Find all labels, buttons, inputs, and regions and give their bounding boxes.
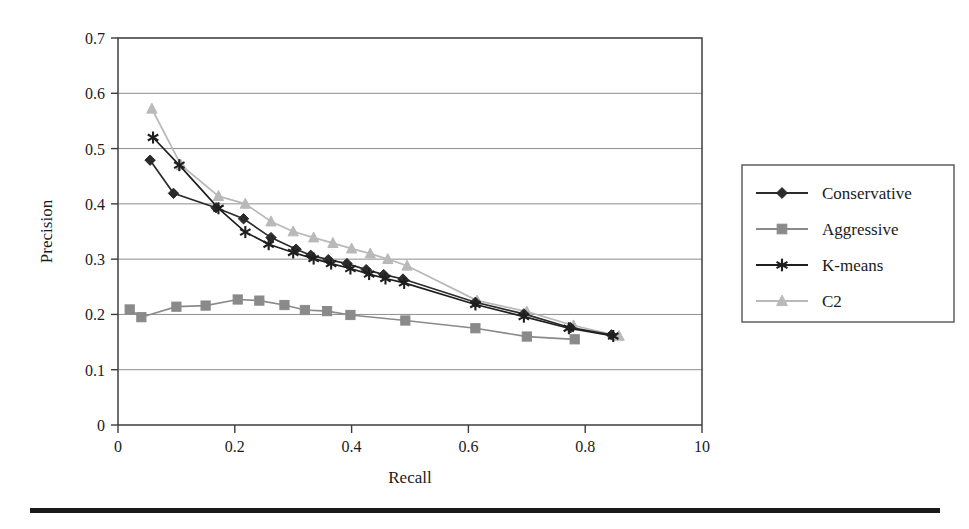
data-point-marker-square bbox=[233, 295, 242, 304]
plot-frame-layer bbox=[118, 38, 702, 425]
x-tick-label: 0.4 bbox=[342, 438, 362, 455]
data-point-marker-square bbox=[172, 302, 181, 311]
data-point-marker-diamond bbox=[168, 188, 178, 198]
figure-container: 00.10.20.30.40.50.60.700.20.40.60.810 Re… bbox=[0, 0, 969, 529]
data-point-marker-triangle bbox=[213, 191, 223, 201]
data-point-marker-square bbox=[137, 313, 146, 322]
data-point-marker-square bbox=[125, 305, 134, 314]
legend-layer: ConservativeAggressiveK-meansC2 bbox=[742, 165, 954, 322]
x-axis-title: Recall bbox=[388, 468, 432, 487]
y-tick-label: 0.3 bbox=[85, 251, 105, 268]
series-layer bbox=[125, 103, 624, 344]
y-axis-title: Precision bbox=[37, 199, 56, 263]
data-point-marker-square bbox=[471, 324, 480, 333]
page-divider-rule bbox=[30, 508, 940, 513]
series-c2 bbox=[147, 103, 625, 340]
data-point-marker-square bbox=[255, 296, 264, 305]
legend-label: Aggressive bbox=[822, 220, 898, 239]
data-point-marker-square bbox=[346, 310, 355, 319]
data-point-marker-triangle bbox=[266, 216, 276, 226]
series-line bbox=[150, 160, 611, 335]
data-point-marker-square bbox=[570, 335, 579, 344]
y-tick-label: 0.4 bbox=[85, 196, 105, 213]
data-point-marker-diamond bbox=[145, 155, 155, 165]
series-k-means bbox=[148, 132, 619, 342]
data-point-marker-square bbox=[322, 307, 331, 316]
y-tick-label: 0.2 bbox=[85, 306, 105, 323]
data-point-marker-square bbox=[300, 305, 309, 314]
series-aggressive bbox=[125, 295, 579, 344]
data-point-marker-triangle bbox=[147, 103, 157, 113]
legend-label: C2 bbox=[822, 292, 842, 311]
series-conservative bbox=[145, 155, 617, 340]
precision-recall-chart: 00.10.20.30.40.50.60.700.20.40.60.810 Re… bbox=[0, 0, 969, 529]
data-point-marker-square bbox=[777, 224, 787, 234]
y-tick-label: 0.1 bbox=[85, 362, 105, 379]
y-tick-label: 0.6 bbox=[85, 85, 105, 102]
data-point-marker-square bbox=[401, 316, 410, 325]
x-tick-label: 0.6 bbox=[458, 438, 478, 455]
data-point-marker-triangle bbox=[288, 226, 298, 236]
data-point-marker-square bbox=[280, 300, 289, 309]
y-tick-label: 0.7 bbox=[85, 30, 105, 47]
x-tick-label: 0.2 bbox=[225, 438, 245, 455]
data-point-marker-square bbox=[201, 301, 210, 310]
data-point-marker-diamond bbox=[266, 232, 276, 242]
x-tick-label: 0 bbox=[114, 438, 122, 455]
data-point-marker-diamond bbox=[238, 214, 248, 224]
y-tick-label: 0.5 bbox=[85, 141, 105, 158]
y-tick-label: 0 bbox=[97, 417, 105, 434]
legend-label: Conservative bbox=[822, 184, 912, 203]
plot-frame bbox=[118, 38, 702, 425]
legend-label: K-means bbox=[822, 256, 883, 275]
data-point-marker-square bbox=[522, 332, 531, 341]
x-tick-label: 0.8 bbox=[575, 438, 595, 455]
series-line bbox=[153, 138, 613, 336]
x-tick-label: 10 bbox=[694, 438, 710, 455]
